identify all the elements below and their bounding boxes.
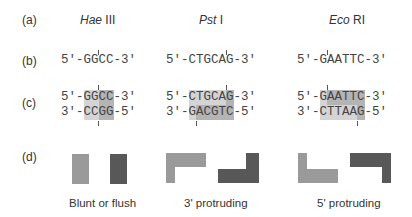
bottom-strand-char: A (342, 105, 350, 120)
top-cleavage-marker (226, 85, 227, 90)
strand-char: ' (69, 53, 77, 68)
recognition-site-haeiii: 5'-GGCC-3' (61, 53, 136, 68)
bottom-strand-char: 5 (372, 105, 380, 120)
top-strand-char: ' (380, 90, 388, 105)
strand-char: G (204, 53, 212, 68)
strand-char: C (189, 53, 197, 68)
bottom-strand-char: A (350, 105, 358, 120)
bottom-strand-char: 3 (297, 105, 305, 120)
top-strand-char: - (114, 90, 122, 105)
strand-char: - (312, 53, 320, 68)
bottom-strand-char: T (335, 105, 343, 120)
three-prime-protruding-fragments (166, 153, 266, 185)
top-strand-char: - (234, 90, 242, 105)
enzyme-name-psti: Pst I (199, 13, 223, 27)
top-strand-char: G (84, 90, 92, 105)
top-strand-char: A (327, 90, 335, 105)
strand-char: C (106, 53, 114, 68)
top-strand-char: 5 (61, 90, 69, 105)
enzyme-suffix: I (216, 13, 223, 27)
cleavage-site-marker (226, 50, 227, 55)
top-strand-char: C (189, 90, 197, 105)
top-strand-char: ' (174, 90, 182, 105)
five-prime-fragment-left (298, 153, 338, 183)
top-strand-char: C (106, 90, 114, 105)
strand-char: G (91, 53, 99, 68)
strand-char: - (234, 53, 242, 68)
bottom-strand-char: - (365, 105, 373, 120)
strand-char: - (365, 53, 373, 68)
strand-char: ' (305, 53, 313, 68)
bottom-strand-char: T (327, 105, 335, 120)
cleavage-site-marker (98, 50, 99, 55)
top-strand-char: 5 (297, 90, 305, 105)
bottom-strand: 3'-GACGTC-5' (166, 105, 256, 120)
top-strand: 5'-GAATTC-3' (297, 90, 387, 105)
top-strand-char: G (320, 90, 328, 105)
top-strand-char: A (335, 90, 343, 105)
blunt-fragment-left (72, 154, 89, 184)
strand-char: ' (174, 53, 182, 68)
three-prime-fragment-right (218, 153, 259, 183)
bottom-strand: 3'-CTTAAG-5' (297, 105, 387, 120)
strand-char: ' (380, 53, 388, 68)
bottom-cleavage-marker (98, 121, 99, 126)
enzyme-genus: Pst (199, 13, 216, 27)
top-strand-char: - (312, 90, 320, 105)
strand-char: ' (249, 53, 257, 68)
enzyme-name-ecori: Eco RI (329, 13, 365, 27)
top-strand-char: 3 (372, 90, 380, 105)
strand-char: 3 (121, 53, 129, 68)
top-strand-char: C (211, 90, 219, 105)
strand-char: C (99, 53, 107, 68)
bottom-strand-char: ' (129, 105, 137, 120)
top-strand-char: 5 (166, 90, 174, 105)
top-strand: 5'-GGCC-3' (61, 90, 136, 105)
bottom-strand-char: C (204, 105, 212, 120)
strand-char: 5 (297, 53, 305, 68)
top-strand-char: G (91, 90, 99, 105)
recognition-site-ecori: 5'-GAATTC-3' (297, 53, 387, 68)
bottom-strand-char: 5 (241, 105, 249, 120)
bottom-strand-char: ' (380, 105, 388, 120)
strand-char: C (357, 53, 365, 68)
bottom-strand-char: A (196, 105, 204, 120)
top-strand-char: ' (249, 90, 257, 105)
row-label-d: (d) (22, 150, 37, 164)
strand-char: T (342, 53, 350, 68)
top-strand-char: 3 (241, 90, 249, 105)
strand-char: 5 (166, 53, 174, 68)
bottom-strand-char: ' (69, 105, 77, 120)
bottom-strand-char: ' (305, 105, 313, 120)
bottom-strand-char: C (320, 105, 328, 120)
strand-char: A (327, 53, 335, 68)
bottom-strand-char: C (226, 105, 234, 120)
top-cleavage-marker (327, 85, 328, 90)
top-strand-char: ' (69, 90, 77, 105)
top-strand-char: T (342, 90, 350, 105)
bottom-strand-char: G (189, 105, 197, 120)
bottom-strand-char: 5 (121, 105, 129, 120)
strand-char: G (320, 53, 328, 68)
bottom-strand-char: C (84, 105, 92, 120)
caption-blunt: Blunt or flush (69, 197, 136, 209)
caption-3-prime-protruding: 3' protruding (184, 197, 248, 209)
strand-char: 3 (241, 53, 249, 68)
enzyme-suffix: RI (350, 13, 365, 27)
top-cleavage-marker (98, 85, 99, 90)
top-strand-char: ' (129, 90, 137, 105)
top-strand-char: A (219, 90, 227, 105)
bottom-strand-char: ' (174, 105, 182, 120)
recognition-site-psti: 5'-CTGCAG-3' (166, 53, 256, 68)
strand-char: G (84, 53, 92, 68)
enzyme-genus: Hae (80, 13, 102, 27)
strand-char: ' (129, 53, 137, 68)
top-strand: 5'-CTGCAG-3' (166, 90, 256, 105)
three-prime-fragment-left (166, 153, 206, 183)
bottom-strand-char: C (91, 105, 99, 120)
enzyme-suffix: III (102, 13, 115, 27)
bottom-strand-char: G (106, 105, 114, 120)
blunt-fragment-right (110, 154, 127, 184)
top-strand-char: - (181, 90, 189, 105)
top-strand-char: G (226, 90, 234, 105)
